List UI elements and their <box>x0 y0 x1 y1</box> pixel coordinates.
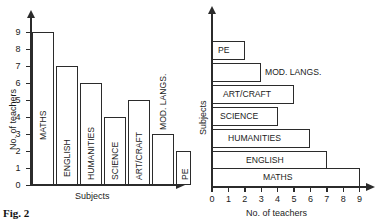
figure-caption: Fig. 2 <box>3 207 29 219</box>
y-tick-4 <box>26 117 30 118</box>
x-tick-label-5: 5 <box>288 194 300 204</box>
y-tick-2 <box>26 151 30 152</box>
y-tick-label-6: 6 <box>12 78 24 88</box>
x-tick-3 <box>261 188 262 192</box>
bar-label-pe: PE <box>181 169 190 180</box>
x-tick-label-4: 4 <box>272 194 284 204</box>
y-tick-label-9: 9 <box>12 27 24 37</box>
bar-label-humanities: HUMANITIES <box>87 127 96 180</box>
x-tick-0 <box>211 188 212 192</box>
x-tick-label-3: 3 <box>255 194 267 204</box>
vertical-bar-chart: 0 1 2 3 4 5 6 7 8 9 MATHS ENGLISH HUMANI… <box>0 0 190 210</box>
x-tick-2 <box>244 188 245 192</box>
horizontal-bar-chart: 0 1 2 3 4 5 6 7 8 9 PE MOD. LANGS. ART/C… <box>190 0 387 223</box>
bar-label-humanities: HUMANITIES <box>228 134 281 143</box>
bar-label-art-craft: ART/CRAFT <box>135 132 144 180</box>
y-tick-label-1: 1 <box>12 163 24 173</box>
x-tick-5 <box>293 188 294 192</box>
x-tick-9 <box>359 188 360 192</box>
bar-label-english: ENGLISH <box>63 139 72 177</box>
bar-label-art-craft: ART/CRAFT <box>223 90 271 99</box>
y-tick-3 <box>26 134 30 135</box>
x-axis-arrowhead <box>366 183 375 191</box>
x-tick-8 <box>343 188 344 192</box>
y-tick-7 <box>26 66 30 67</box>
bar-label-pe: PE <box>218 46 229 55</box>
bar-label-mod-langs: MOD. LANGS. <box>265 68 321 77</box>
y-tick-0 <box>26 185 30 186</box>
x-axis-title: No. of teachers <box>246 208 307 218</box>
bar-label-english: ENGLISH <box>246 156 284 165</box>
x-tick-label-6: 6 <box>304 194 316 204</box>
x-tick-1 <box>228 188 229 192</box>
bar-label-maths: MATHS <box>263 173 292 182</box>
bar-maths <box>32 32 54 185</box>
bar-label-mod-langs: MOD. LANGS. <box>159 74 168 130</box>
x-tick-label-9: 9 <box>354 194 366 204</box>
bar-mod-langs <box>212 63 261 82</box>
x-tick-6 <box>310 188 311 192</box>
x-tick-label-1: 1 <box>222 194 234 204</box>
y-tick-label-8: 8 <box>12 44 24 54</box>
x-tick-label-2: 2 <box>239 194 251 204</box>
figure-two-bar-charts: 0 1 2 3 4 5 6 7 8 9 MATHS ENGLISH HUMANI… <box>0 0 387 223</box>
bar-label-maths: MATHS <box>39 111 48 140</box>
y-tick-label-7: 7 <box>12 61 24 71</box>
bar-label-science: SCIENCE <box>111 142 120 180</box>
x-tick-label-7: 7 <box>321 194 333 204</box>
y-tick-label-0: 0 <box>12 180 24 190</box>
x-tick-7 <box>326 188 327 192</box>
y-axis-arrowhead <box>27 10 35 18</box>
y-axis-arrowhead <box>208 6 216 14</box>
x-axis-title: Subjects <box>75 191 110 201</box>
x-tick-4 <box>277 188 278 192</box>
y-tick-1 <box>26 168 30 169</box>
y-axis-title: No. of teachers <box>8 89 18 150</box>
y-tick-9 <box>26 32 30 33</box>
x-tick-label-8: 8 <box>337 194 349 204</box>
y-tick-6 <box>26 83 30 84</box>
x-tick-label-0: 0 <box>206 194 218 204</box>
bar-label-science: SCIENCE <box>220 112 258 121</box>
y-axis-title: Subjects <box>198 100 208 135</box>
y-tick-5 <box>26 100 30 101</box>
bar-mod-langs <box>152 134 174 185</box>
y-tick-8 <box>26 49 30 50</box>
